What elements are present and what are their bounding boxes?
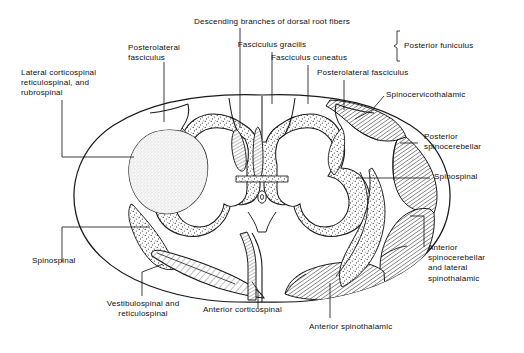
label-posterolateral-fasciculus-left: Posterolateral fasciculus: [128, 43, 218, 63]
label-spinospinal-left: Spinospinal: [32, 256, 112, 266]
label-anterior-spinothalamic: Anterior spinothalamic: [309, 322, 441, 332]
label-vestibulospinal: Vestibulospinal and reticulospinal: [79, 299, 207, 319]
label-anterior-corticospinal: Anterior corticospinal: [203, 305, 327, 315]
posterior-gray-commissure: [236, 176, 288, 182]
label-lateral-corticospinal: Lateral corticospinal reticulospinal, an…: [21, 68, 153, 99]
label-fasciculus-cuneatus: Fasciculus cuneatus: [248, 53, 370, 63]
label-anterior-spinocerebellar: Anterior spinocerebellar and lateral spi…: [428, 243, 522, 284]
label-posterior-funiculus: Posterior funiculus: [404, 41, 520, 51]
label-fasciculus-gracilis: Fasciculus gracilis: [212, 40, 332, 50]
label-posterior-spinocerebellar: Posterior spinocerebellar: [424, 132, 516, 152]
label-posterolateral-fasciculus-right: Posterolateral fasciculus: [317, 68, 449, 78]
label-spinocervicothalamic: Spinocervicothalamic: [386, 90, 506, 100]
descending-branch-oval-right: [253, 127, 263, 180]
label-descending-branches: Descending branches of dorsal root fiber…: [164, 17, 380, 27]
posterior-funiculus-bracket: [394, 31, 400, 61]
label-spinospinal-right: Spinospinal: [434, 172, 518, 182]
central-canal: [258, 191, 266, 203]
figure-page: Lateral corticospinal reticulospinal, an…: [0, 0, 524, 353]
